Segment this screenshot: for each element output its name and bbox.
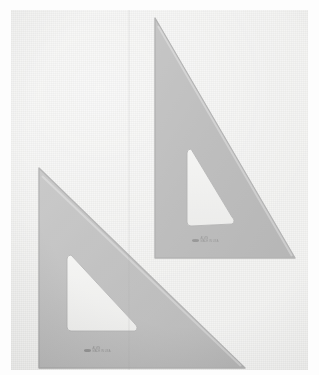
paper-sheet: ALVIN MADE IN USA ALVIN MADE IN USA bbox=[11, 10, 308, 370]
triangles-layer bbox=[11, 10, 308, 370]
large-drafting-triangle bbox=[155, 18, 295, 258]
image-canvas: ALVIN MADE IN USA ALVIN MADE IN USA bbox=[0, 0, 319, 375]
triangles-svg bbox=[11, 10, 308, 370]
